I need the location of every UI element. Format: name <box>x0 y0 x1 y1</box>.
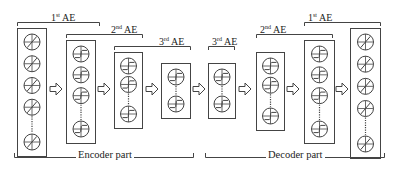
dec-code-layer <box>209 64 236 119</box>
dec-hidden-2-layer <box>257 53 285 131</box>
enc-hidden-1-layer <box>67 41 96 144</box>
neuron-icon <box>168 96 184 112</box>
label-text: AE <box>222 36 237 47</box>
encoder-ae-bracket-2 <box>67 35 143 39</box>
neuron-icon <box>24 56 40 72</box>
neuron-icon <box>312 46 328 62</box>
neuron-icon <box>312 67 328 83</box>
neuron-icon <box>358 56 374 72</box>
neuron-icon <box>312 88 328 104</box>
arrow-right-icon <box>336 83 348 95</box>
dec-hidden-1-layer <box>305 41 335 144</box>
neuron-icon <box>121 106 137 122</box>
neuron-icon <box>358 34 374 50</box>
arrow-right-icon <box>193 83 205 95</box>
decoder-ae-bracket-3 <box>305 23 381 27</box>
enc-code-layer <box>162 64 191 119</box>
decoder-ae-bracket-2 <box>257 35 333 39</box>
neuron-icon <box>263 58 279 74</box>
decoder-ae-bracket-1 <box>209 47 235 51</box>
neuron-icon <box>358 136 374 152</box>
neuron-icon <box>358 78 374 94</box>
neuron-icon <box>263 77 279 93</box>
neuron-icon <box>24 77 40 93</box>
arrow-right-icon <box>98 83 110 95</box>
neuron-icon <box>24 34 40 50</box>
decoder-3rd-ae-label: 3rd AE <box>212 34 237 47</box>
encoder-part-label: Encoder part <box>76 149 134 160</box>
decoder-part-label: Decoder part <box>266 149 325 160</box>
label-text: AE <box>122 24 137 35</box>
neuron-icon <box>214 69 230 85</box>
autoencoder-diagram <box>0 0 394 169</box>
label-text: AE <box>60 12 75 23</box>
arrow-right-icon <box>239 83 251 95</box>
neuron-icon <box>263 108 279 124</box>
encoder-1st-ae-label: 1st AE <box>51 10 75 23</box>
label-text: AE <box>317 12 332 23</box>
enc-input-layer <box>18 29 47 157</box>
encoder-3rd-ae-label: 3rd AE <box>159 34 184 47</box>
encoder-ae-bracket-1 <box>18 23 100 27</box>
arrow-right-icon <box>50 83 62 95</box>
decoder-1st-ae-label: 1st AE <box>308 10 332 23</box>
arrow-right-icon <box>287 83 299 95</box>
neuron-icon <box>73 67 89 83</box>
label-text: AE <box>271 24 286 35</box>
neuron-icon <box>121 58 137 74</box>
decoder-2nd-ae-label: 2nd AE <box>260 22 286 35</box>
neuron-icon <box>24 99 40 115</box>
neuron-icon <box>73 121 89 137</box>
neuron-icon <box>358 101 374 117</box>
enc-hidden-2-layer <box>115 53 143 129</box>
dec-output-layer <box>351 29 381 159</box>
neuron-icon <box>24 134 40 150</box>
label-text: AE <box>169 36 184 47</box>
neuron-icon <box>73 46 89 62</box>
encoder-ae-bracket-3 <box>115 47 191 51</box>
neuron-icon <box>73 88 89 104</box>
neuron-icon <box>121 76 137 92</box>
arrow-right-icon <box>146 83 158 95</box>
neuron-icon <box>214 96 230 112</box>
neuron-icon <box>312 121 328 137</box>
encoder-2nd-ae-label: 2nd AE <box>111 22 137 35</box>
neuron-icon <box>168 69 184 85</box>
